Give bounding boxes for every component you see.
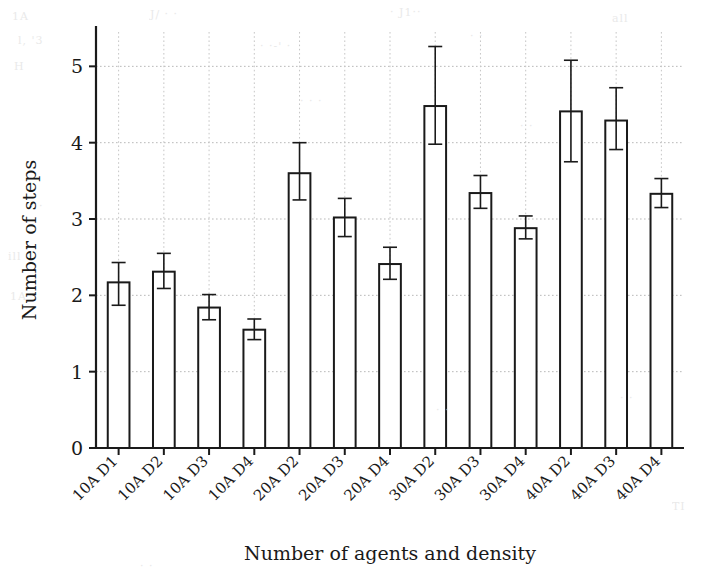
figure-canvas: 01234510A D110A D210A D310A D420A D220A … (0, 0, 702, 584)
bar-group[interactable] (243, 319, 265, 448)
bar[interactable] (651, 194, 673, 448)
bar-group[interactable] (651, 179, 673, 448)
bar[interactable] (424, 106, 446, 448)
y-tick-label: 5 (71, 55, 83, 77)
x-tick-label: 10A D1 (69, 452, 122, 505)
x-tick-label: 40A D4 (612, 452, 665, 505)
x-axis-title: Number of agents and density (244, 542, 536, 564)
bar[interactable] (470, 193, 492, 448)
x-tick-label: 10A D4 (205, 452, 258, 505)
bar-group[interactable] (605, 88, 627, 448)
x-tick-label: 10A D2 (114, 452, 167, 505)
bar-group[interactable] (289, 143, 311, 448)
y-tick-label: 4 (71, 132, 83, 154)
y-tick-label: 1 (71, 361, 83, 383)
bar-group[interactable] (560, 60, 582, 448)
bar-group[interactable] (334, 198, 356, 448)
bar[interactable] (289, 173, 311, 448)
y-axis-title: Number of steps (18, 160, 40, 320)
x-axis-ticks: 10A D110A D210A D310A D420A D220A D320A … (69, 448, 664, 505)
bar[interactable] (605, 121, 627, 448)
y-tick-label: 0 (71, 437, 83, 459)
y-tick-label: 2 (71, 284, 83, 306)
bar-group[interactable] (108, 263, 130, 448)
bar[interactable] (334, 217, 356, 448)
bar-group[interactable] (153, 253, 175, 448)
bar[interactable] (243, 330, 265, 448)
x-tick-label: 10A D3 (159, 452, 212, 505)
bar-chart: 01234510A D110A D210A D310A D420A D220A … (0, 0, 702, 584)
bar-group[interactable] (515, 216, 537, 448)
x-tick-label: 40A D3 (566, 452, 619, 505)
x-tick-label: 30A D2 (386, 452, 439, 505)
x-tick-label: 30A D3 (431, 452, 484, 505)
bar-group[interactable] (424, 47, 446, 448)
y-axis-ticks: 012345 (71, 55, 96, 459)
x-tick-label: 40A D2 (521, 452, 574, 505)
bar-group[interactable] (379, 247, 401, 448)
x-tick-label: 20A D4 (340, 452, 393, 505)
bar[interactable] (108, 282, 130, 448)
x-tick-label: 20A D3 (295, 452, 348, 505)
bar[interactable] (515, 228, 537, 448)
bar-group[interactable] (198, 295, 220, 448)
x-tick-label: 20A D2 (250, 452, 303, 505)
bar[interactable] (198, 308, 220, 448)
x-tick-label: 30A D4 (476, 452, 529, 505)
bar-series (108, 47, 672, 448)
bar[interactable] (153, 272, 175, 448)
y-tick-label: 3 (71, 208, 83, 230)
bar-group[interactable] (470, 176, 492, 448)
bar[interactable] (379, 264, 401, 448)
